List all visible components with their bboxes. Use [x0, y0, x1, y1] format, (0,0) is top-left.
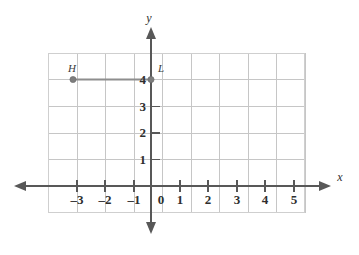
x-tick-label-2: 2 [205, 192, 212, 207]
x-tick-label-3: 3 [234, 192, 241, 207]
x-tick-label-5: 5 [291, 192, 298, 207]
x-tick-label-zero: 0 [158, 192, 165, 207]
x-tick-label-minus-1: –1 [127, 192, 141, 207]
y-tick-label-4: 4 [140, 72, 147, 87]
point-label-l: L [157, 62, 164, 74]
y-tick-label-3: 3 [140, 99, 147, 114]
coordinate-plane-figure: –3 –2 –1 0 1 2 3 4 5 1 2 3 4 x y H L [0, 0, 359, 255]
x-tick-label-4: 4 [262, 192, 269, 207]
point-label-h: H [67, 62, 77, 74]
x-tick-label-minus-2: –2 [98, 192, 112, 207]
x-tick-label-1: 1 [177, 192, 184, 207]
coordinate-plane-svg: –3 –2 –1 0 1 2 3 4 5 1 2 3 4 x y H L [0, 0, 359, 255]
x-tick-label-minus-3: –3 [70, 192, 85, 207]
y-axis-label: y [145, 11, 152, 25]
point-l [148, 76, 154, 82]
y-tick-label-1: 1 [140, 152, 147, 167]
y-tick-label-2: 2 [140, 125, 147, 140]
point-h [70, 76, 76, 82]
x-axis-label: x [336, 170, 343, 184]
